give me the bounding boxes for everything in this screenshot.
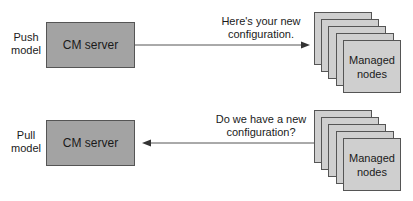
arrowhead-right-icon: [301, 42, 310, 49]
arrowhead-left-icon: [142, 140, 151, 147]
arrows-layer: [0, 0, 413, 201]
pull-arrow: [142, 140, 314, 147]
push-arrow: [135, 42, 310, 49]
